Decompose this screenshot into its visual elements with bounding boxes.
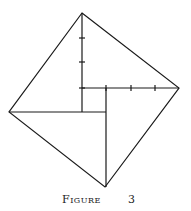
figure-3-diagram [0, 0, 191, 211]
caption-number: 3 [128, 193, 136, 206]
outer-square [9, 13, 179, 187]
caption-word: Figure [62, 193, 101, 206]
